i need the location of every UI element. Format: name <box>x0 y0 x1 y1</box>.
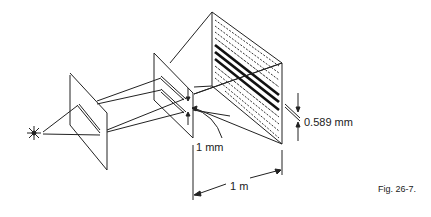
light-source-icon <box>27 126 41 140</box>
figure-caption: Fig. 26-7. <box>378 184 416 194</box>
double-slit-figure: 1 mm 1 m 0.589 mm Fig. 26-7. <box>0 0 431 217</box>
double-slit-screen <box>154 53 193 138</box>
screen-distance-label: 1 m <box>230 180 248 192</box>
fringe-spacing-label: 0.589 mm <box>304 116 353 128</box>
single-slit-screen <box>70 73 107 170</box>
diagram-drawing <box>0 0 431 217</box>
fringe-spacing-dimension <box>285 93 300 141</box>
slit-separation-label: 1 mm <box>196 141 224 153</box>
